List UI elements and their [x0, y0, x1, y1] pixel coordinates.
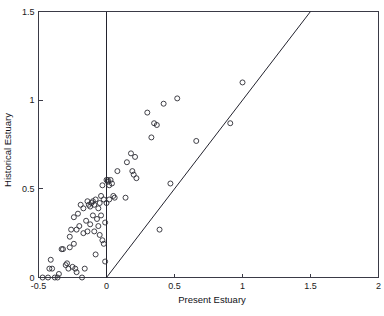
- x-axis-tick-labels: -0.500.511.52: [31, 281, 381, 291]
- data-point: [78, 202, 83, 207]
- data-point: [175, 96, 180, 101]
- data-point: [67, 234, 72, 239]
- x-tick-label: 0.5: [168, 281, 181, 291]
- data-point: [93, 252, 98, 257]
- data-point: [161, 101, 166, 106]
- data-point-markers: [40, 80, 245, 280]
- data-point: [48, 257, 53, 262]
- data-point: [99, 193, 104, 198]
- data-point: [100, 183, 105, 188]
- data-point: [69, 227, 74, 232]
- x-tick-label: 1.5: [304, 281, 317, 291]
- data-point: [99, 213, 104, 218]
- data-point: [133, 154, 138, 159]
- data-point: [134, 176, 139, 181]
- data-point: [88, 222, 93, 227]
- data-point: [124, 160, 129, 165]
- data-point: [97, 232, 102, 237]
- y-tick-label: 0.5: [22, 184, 35, 194]
- one-to-one-reference-line: [107, 12, 311, 278]
- x-axis-title: Present Estuary: [178, 294, 246, 305]
- y-axis-ticks: [39, 12, 43, 278]
- data-point: [77, 224, 82, 229]
- data-point: [168, 181, 173, 186]
- data-point: [92, 229, 97, 234]
- data-point: [123, 195, 128, 200]
- data-point: [74, 227, 79, 232]
- y-axis-title: Historical Estuary: [2, 113, 13, 187]
- y-tick-label: 1.5: [22, 7, 35, 17]
- reference-lines: [107, 12, 311, 278]
- x-tick-label: 0: [104, 281, 109, 291]
- y-axis-tick-labels: 00.511.5: [22, 7, 35, 283]
- y-tick-label: 0: [29, 273, 34, 283]
- data-point: [115, 169, 120, 174]
- scatter-plot-figure: -0.500.511.52 00.511.5 Present Estuary H…: [0, 0, 384, 316]
- data-point: [96, 224, 101, 229]
- data-point: [96, 206, 101, 211]
- data-point: [101, 197, 106, 202]
- data-point: [82, 266, 87, 271]
- x-axis-ticks: [39, 274, 379, 278]
- data-point: [194, 138, 199, 143]
- data-point: [228, 121, 233, 126]
- x-tick-label: 1: [240, 281, 245, 291]
- data-point: [157, 227, 162, 232]
- data-point: [71, 241, 76, 246]
- data-point: [149, 135, 154, 140]
- data-point: [81, 206, 86, 211]
- x-tick-label: 2: [376, 281, 381, 291]
- data-point: [75, 211, 80, 216]
- y-tick-label: 1: [29, 95, 34, 105]
- data-point: [145, 110, 150, 115]
- plot-canvas: -0.500.511.52 00.511.5 Present Estuary H…: [0, 0, 384, 316]
- data-point: [240, 80, 245, 85]
